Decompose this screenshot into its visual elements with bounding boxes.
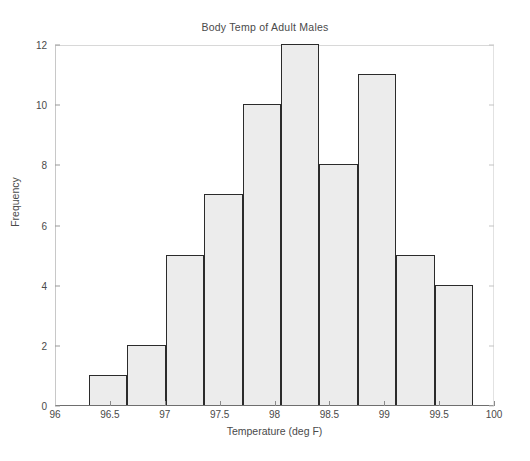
y-axis-tick-label: 12	[36, 40, 47, 51]
x-axis-tick-label: 96.5	[100, 409, 119, 420]
plot-area	[55, 45, 494, 406]
y-axis-tick-mark-right	[489, 406, 494, 407]
y-axis-tick-mark-right	[489, 105, 494, 106]
y-axis-tick-mark-right	[489, 345, 494, 346]
histogram-bar	[396, 255, 434, 405]
y-axis-tick-mark	[55, 105, 60, 106]
y-axis-tick-label: 10	[36, 100, 47, 111]
histogram-bar	[243, 104, 281, 405]
histogram-figure: Body Temp of Adult Males Frequency 02468…	[0, 0, 530, 461]
y-axis-tick-mark	[55, 345, 60, 346]
histogram-bar	[166, 255, 204, 405]
y-axis-tick-label: 6	[41, 220, 47, 231]
y-axis: Frequency 024681012	[0, 0, 55, 461]
y-axis-tick-mark-right	[489, 45, 494, 46]
x-axis-tick-label: 99	[379, 409, 390, 420]
y-axis-tick-mark	[55, 45, 60, 46]
y-axis-tick-label: 4	[41, 280, 47, 291]
histogram-bar	[127, 345, 165, 405]
x-axis-tick-mark	[494, 401, 495, 406]
y-axis-tick-mark	[55, 285, 60, 286]
histogram-bar	[204, 194, 242, 405]
x-axis-tick-label: 97	[159, 409, 170, 420]
y-axis-tick-mark-right	[489, 225, 494, 226]
histogram-bar	[435, 285, 473, 405]
bars-layer	[56, 46, 493, 405]
y-axis-tick-label: 0	[41, 401, 47, 412]
histogram-bar	[319, 164, 357, 405]
histogram-bar	[281, 44, 319, 405]
y-axis-tick-mark	[55, 406, 60, 407]
y-axis-tick-label: 8	[41, 160, 47, 171]
y-axis-tick-label: 2	[41, 340, 47, 351]
x-axis-tick-label: 96	[49, 409, 60, 420]
histogram-bar	[89, 375, 127, 405]
x-axis-label: Temperature (deg F)	[55, 425, 494, 437]
histogram-bar	[358, 74, 396, 405]
y-axis-tick-mark-right	[489, 285, 494, 286]
x-axis-tick-label: 98	[269, 409, 280, 420]
x-axis-tick-label: 100	[486, 409, 503, 420]
y-axis-tick-mark-right	[489, 165, 494, 166]
y-axis-tick-mark	[55, 225, 60, 226]
y-axis-label: Frequency	[9, 162, 21, 242]
chart-title: Body Temp of Adult Males	[0, 21, 530, 33]
x-axis-tick-label: 97.5	[210, 409, 229, 420]
x-axis-tick-label: 99.5	[429, 409, 448, 420]
x-axis-tick-label: 98.5	[320, 409, 339, 420]
y-axis-tick-mark	[55, 165, 60, 166]
